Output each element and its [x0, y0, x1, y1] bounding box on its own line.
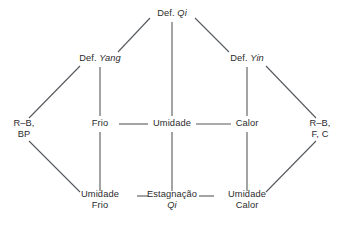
node-def-qi-line1-text: Def. [157, 8, 177, 18]
edge-r-b-f-c--umidade-calor [266, 141, 316, 192]
edge-def-yang--r-b-bp [29, 66, 80, 118]
node-estagnacao-qi-line2-emphasis: Qi [167, 200, 177, 210]
node-estagnacao-qi-line1: Estagnação [147, 189, 197, 200]
node-def-yang-line1-text: Def. [79, 53, 99, 63]
node-umidade-calor: UmidadeCalor [228, 189, 266, 212]
node-def-yin-line1-text: Def. [230, 53, 250, 63]
node-r-b-bp-line1-text: R–B, [13, 118, 34, 128]
node-umidade-frio: UmidadeFrio [81, 189, 119, 212]
edge-def-qi--def-yin [195, 18, 229, 52]
node-umidade: Umidade [153, 118, 191, 129]
node-calor: Calor [236, 118, 259, 129]
node-estagnacao-qi-line2: Qi [147, 200, 197, 211]
node-def-qi-line1: Def. Qi [157, 8, 187, 19]
node-estagnacao-qi-line1-text: Estagnação [147, 189, 197, 199]
node-umidade-line1: Umidade [153, 118, 191, 129]
node-umidade-frio-line2-text: Frio [92, 200, 108, 210]
node-frio-line1-text: Frio [92, 118, 108, 128]
node-def-qi-line1-emphasis: Qi [177, 8, 187, 18]
node-r-b-bp-line2-text: BP [18, 129, 31, 139]
node-r-b-bp: R–B,BP [13, 118, 34, 141]
node-def-yin-line1: Def. Yin [230, 53, 264, 64]
node-def-qi: Def. Qi [157, 8, 187, 19]
node-calor-line1-text: Calor [236, 118, 259, 128]
diagram-canvas: Def. QiDef. YangDef. YinR–B,BPFrioUmidad… [0, 0, 344, 228]
node-umidade-frio-line1-text: Umidade [81, 189, 119, 199]
node-umidade-frio-line1: Umidade [81, 189, 119, 200]
node-frio-line1: Frio [92, 118, 108, 129]
node-frio: Frio [92, 118, 108, 129]
node-umidade-calor-line2-text: Calor [236, 200, 259, 210]
node-def-yang: Def. Yang [79, 53, 121, 64]
edge-def-yin--r-b-f-c [266, 66, 316, 118]
node-r-b-bp-line2: BP [13, 129, 34, 140]
node-umidade-calor-line1-text: Umidade [228, 189, 266, 199]
node-r-b-f-c-line2-text: F, C [312, 129, 329, 139]
node-calor-line1: Calor [236, 118, 259, 129]
edge-def-qi--def-yang [118, 18, 150, 52]
node-r-b-f-c: R–B,F, C [309, 118, 330, 141]
node-estagnacao-qi: EstagnaçãoQi [147, 189, 197, 212]
node-umidade-line1-text: Umidade [153, 118, 191, 128]
node-def-yang-line1-emphasis: Yang [99, 53, 120, 63]
edge-r-b-bp--umidade-frio [29, 141, 80, 192]
node-umidade-calor-line1: Umidade [228, 189, 266, 200]
node-r-b-bp-line1: R–B, [13, 118, 34, 129]
node-def-yang-line1: Def. Yang [79, 53, 121, 64]
node-r-b-f-c-line1-text: R–B, [309, 118, 330, 128]
node-umidade-calor-line2: Calor [228, 200, 266, 211]
node-r-b-f-c-line2: F, C [309, 129, 330, 140]
node-r-b-f-c-line1: R–B, [309, 118, 330, 129]
node-def-yin-line1-emphasis: Yin [250, 53, 264, 63]
node-def-yin: Def. Yin [230, 53, 264, 64]
node-umidade-frio-line2: Frio [81, 200, 119, 211]
